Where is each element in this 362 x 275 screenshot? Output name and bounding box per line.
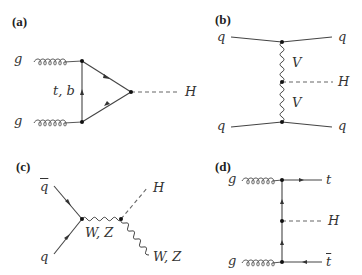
label-higgs: H xyxy=(185,85,196,98)
vertex xyxy=(280,120,284,124)
label-quark: q xyxy=(40,250,48,263)
vertex xyxy=(119,217,123,221)
arrow-icon xyxy=(280,240,284,245)
arrow-icon xyxy=(302,260,307,264)
vertex xyxy=(280,219,284,223)
label-propagator: W, Z xyxy=(85,226,113,239)
quark-line-top-out xyxy=(282,37,332,42)
feynman-diagrams-canvas xyxy=(0,0,362,275)
vertex xyxy=(80,120,84,124)
vertex xyxy=(280,80,284,84)
panel-label-c: (c) xyxy=(16,160,30,173)
label-gluon-top: g xyxy=(14,52,22,65)
vertex xyxy=(80,217,84,221)
label-antitop: t xyxy=(326,255,331,268)
boson-out-line xyxy=(121,219,149,255)
panel-label-b: (b) xyxy=(215,13,231,26)
diagram-d-tth-production xyxy=(242,178,323,266)
label-loop-quarks: t, b xyxy=(53,84,75,97)
label-quark-top-right: q xyxy=(338,30,346,43)
label-boson-top: V xyxy=(292,56,301,69)
label-gluon-top: g xyxy=(228,172,236,185)
panel-label-a: (a) xyxy=(12,15,27,28)
quark-line-bottom-out xyxy=(282,122,332,127)
loop-lower xyxy=(82,92,131,122)
arrow-icon xyxy=(299,178,304,182)
label-boson-bottom: V xyxy=(292,96,301,109)
quark-line-top-in xyxy=(231,37,282,42)
vertex xyxy=(129,90,133,94)
diagram-c-higgsstrahlung xyxy=(54,186,149,255)
label-quark-bottom-left: q xyxy=(217,119,225,132)
label-higgs: H xyxy=(328,214,339,227)
arrow-icon xyxy=(64,234,70,240)
label-higgs: H xyxy=(153,181,164,194)
arrow-icon xyxy=(280,199,284,204)
vertex xyxy=(280,178,284,182)
gluon-line-bottom xyxy=(34,120,82,126)
boson-line-top xyxy=(280,42,284,82)
vertex xyxy=(80,59,84,63)
boson-line-bottom xyxy=(280,82,284,122)
label-gluon-bottom: g xyxy=(228,254,236,267)
gluon-line-top xyxy=(242,178,282,184)
label-higgs: H xyxy=(338,75,349,88)
label-boson-out: W, Z xyxy=(153,250,181,263)
arrow-icon xyxy=(103,74,110,79)
label-gluon-bottom: g xyxy=(14,114,22,127)
higgs-line xyxy=(121,187,148,219)
gluon-line-top xyxy=(34,59,82,65)
vertex xyxy=(280,40,284,44)
arrow-icon xyxy=(80,89,84,95)
label-antiquark: q xyxy=(40,180,48,193)
quark-line-bottom-in xyxy=(231,122,282,127)
vertex xyxy=(280,260,284,264)
label-quark-bottom-right: q xyxy=(338,119,346,132)
gluon-line-bottom xyxy=(242,260,282,266)
diagram-b-vector-boson-fusion xyxy=(231,37,333,127)
label-top: t xyxy=(326,173,331,186)
label-quark-top-left: q xyxy=(217,30,225,43)
boson-propagator xyxy=(82,217,121,221)
